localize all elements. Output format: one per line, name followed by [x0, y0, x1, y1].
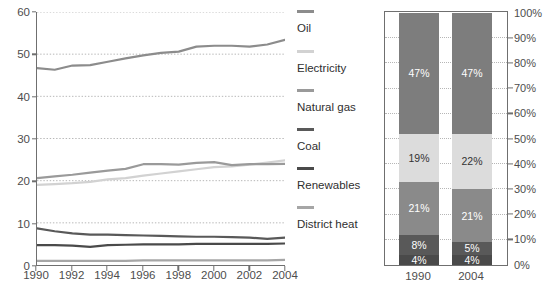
bar-x-label-2004: 2004: [458, 270, 484, 282]
bar-y-tick-label: 50%: [514, 133, 536, 145]
line-chart: 0102030405060 19901992199419961998200020…: [0, 0, 300, 291]
y-tick-label: 60: [8, 6, 30, 18]
x-tick-mark: [71, 266, 72, 271]
bar-y-tick-mark: [508, 163, 513, 164]
figure-root: 0102030405060 19901992199419961998200020…: [0, 0, 551, 291]
bar-segment-coal[interactable]: 21%: [399, 182, 439, 235]
bar-chart-plot-area: 4%8%21%19%47%4%5%21%22%47%: [384, 11, 508, 266]
x-tick-mark: [284, 266, 285, 271]
bar-y-tick-label: 10%: [514, 233, 536, 245]
bar-y-tick-label: 0%: [514, 259, 530, 271]
line-series-natural-gas: [37, 162, 285, 178]
bar-y-tick-mark: [508, 113, 513, 114]
bar-segment-natural-gas[interactable]: 22%: [452, 134, 492, 189]
bar-y-tick-label: 100%: [514, 7, 542, 19]
x-tick-mark: [249, 266, 250, 271]
legend-swatch-coal-icon: [297, 128, 314, 131]
x-tick-mark: [35, 266, 36, 271]
bar-y-tick-label: 60%: [514, 107, 536, 119]
bar-y-tick-label: 40%: [514, 158, 536, 170]
legend-label: District heat: [297, 218, 358, 230]
x-tick-mark: [106, 266, 107, 271]
bar-segment-coal[interactable]: 21%: [452, 189, 492, 242]
bar-y-tick-label: 20%: [514, 208, 536, 220]
bar-segment-label: 21%: [408, 203, 429, 214]
bar-segment-oil[interactable]: 47%: [452, 13, 492, 134]
legend-item-renewables[interactable]: Renewables: [297, 167, 383, 193]
legend-item-oil[interactable]: Oil: [297, 10, 383, 36]
legend-item-district-heat[interactable]: District heat: [297, 206, 383, 232]
bar-y-tick-mark: [508, 188, 513, 189]
bar-segment-renewables[interactable]: 5%: [452, 242, 492, 255]
legend-swatch-district-heat-icon: [297, 206, 314, 209]
y-tick-label: 10: [8, 218, 30, 230]
bar-y-tick-mark: [508, 138, 513, 139]
bar-segment-label: 19%: [408, 153, 429, 164]
bar-segment-label: 4%: [411, 255, 426, 266]
legend-label: Renewables: [297, 179, 360, 191]
bar-segment-label: 22%: [461, 156, 482, 167]
x-tick-mark: [213, 266, 214, 271]
y-tick-label: 20: [8, 175, 30, 187]
y-tick-label: 50: [8, 48, 30, 60]
bar-y-tick-mark: [508, 37, 513, 38]
x-tick-mark: [142, 266, 143, 271]
bar-column-1990[interactable]: 4%8%21%19%47%: [399, 12, 439, 265]
bar-segment-label: 21%: [461, 211, 482, 222]
legend-label: Electricity: [297, 62, 346, 74]
bar-segment-renewables[interactable]: 8%: [399, 235, 439, 255]
legend-item-natural-gas[interactable]: Natural gas: [297, 89, 383, 115]
legend-label: Oil: [297, 22, 311, 34]
bar-y-tick-label: 80%: [514, 57, 536, 69]
legend-swatch-renewables-icon: [297, 167, 314, 170]
legend-swatch-electricity-icon: [297, 50, 314, 53]
bar-segment-natural-gas[interactable]: 19%: [399, 134, 439, 182]
bar-x-label-1990: 1990: [405, 270, 431, 282]
line-series-oil: [37, 40, 285, 70]
bar-column-2004[interactable]: 4%5%21%22%47%: [452, 12, 492, 265]
line-chart-plot-area: [36, 12, 285, 266]
bar-segment-oil[interactable]: 47%: [399, 13, 439, 134]
legend-swatch-oil-icon: [297, 10, 314, 13]
legend-label: Coal: [297, 140, 321, 152]
bar-y-tick-mark: [508, 214, 513, 215]
bar-y-tick-label: 90%: [514, 32, 536, 44]
legend-swatch-natural-gas-icon: [297, 89, 314, 92]
line-series-district-heat: [37, 260, 285, 261]
stacked-bar-chart: 4%8%21%19%47%4%5%21%22%47% 0%10%20%30%40…: [381, 0, 551, 291]
bar-segment-district-heat[interactable]: 4%: [452, 255, 492, 265]
bar-segment-label: 8%: [411, 240, 426, 251]
y-tick-label: 30: [8, 133, 30, 145]
bar-segment-district-heat[interactable]: 4%: [399, 255, 439, 265]
bar-y-tick-mark: [508, 88, 513, 89]
legend-item-coal[interactable]: Coal: [297, 128, 383, 154]
legend-label: Natural gas: [297, 101, 356, 113]
x-tick-mark: [178, 266, 179, 271]
line-series-coal: [37, 228, 285, 239]
bar-y-tick-mark: [508, 62, 513, 63]
line-series-renewables: [37, 243, 285, 246]
bar-segment-label: 4%: [464, 255, 479, 266]
line-chart-svg: [37, 12, 285, 265]
chart-legend: OilElectricityNatural gasCoalRenewablesD…: [297, 0, 383, 291]
bar-y-tick-label: 30%: [514, 183, 536, 195]
bar-segment-label: 47%: [408, 68, 429, 79]
bar-y-tick-label: 70%: [514, 82, 536, 94]
y-tick-label: 40: [8, 91, 30, 103]
legend-item-electricity[interactable]: Electricity: [297, 50, 383, 76]
bar-segment-label: 5%: [464, 243, 479, 254]
bar-y-tick-mark: [508, 239, 513, 240]
bar-segment-label: 47%: [461, 68, 482, 79]
